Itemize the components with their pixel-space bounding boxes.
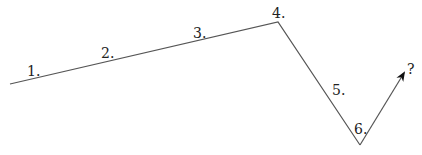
step-label-2: 2. — [101, 45, 114, 61]
path-line — [10, 22, 360, 145]
step-label-1: 1. — [27, 63, 40, 79]
step-label-6: 6. — [354, 121, 367, 137]
question-mark-label: ? — [407, 61, 415, 77]
step-labels: 1. 2. 3. 4. 5. 6. ? — [27, 5, 415, 137]
step-label-4: 4. — [272, 5, 285, 21]
step-label-3: 3. — [193, 25, 206, 41]
diagram-svg: 1. 2. 3. 4. 5. 6. ? — [0, 0, 422, 155]
step-label-5: 5. — [332, 82, 345, 98]
sequence-diagram: 1. 2. 3. 4. 5. 6. ? — [0, 0, 422, 155]
